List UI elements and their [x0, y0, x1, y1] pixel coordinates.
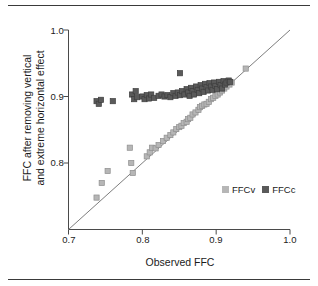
legend-entry-ffcc: FFCc — [262, 184, 295, 195]
x-tick-label-0.9: 0.9 — [203, 234, 229, 245]
plot-canvas — [0, 0, 318, 286]
scatter-plot-figure: 1.0 0.9 0.8 0.7 0.8 0.9 1.0 Observed FFC… — [0, 0, 318, 286]
x-tick-label-1.0: 1.0 — [277, 234, 303, 245]
y-axis-title: FFC after removing vertical and extreme … — [21, 18, 47, 218]
data-point-ffcc-6 — [133, 89, 138, 94]
data-point-ffcc-23 — [177, 71, 182, 76]
data-point-ffcv-4 — [129, 160, 134, 165]
y-axis-title-line-1: FFC after removing vertical — [21, 18, 34, 218]
legend-swatch-ffcc — [262, 186, 269, 193]
data-point-ffcv-1 — [99, 180, 104, 185]
data-point-ffcc-54 — [228, 79, 233, 84]
data-point-ffcv-5 — [130, 170, 135, 175]
data-point-ffcc-3 — [110, 99, 115, 104]
data-point-ffcv-40 — [243, 66, 248, 71]
y-axis-title-line-2: and extreme horizontal effect — [34, 18, 47, 218]
legend-label-ffcc: FFCc — [272, 184, 295, 195]
legend-swatch-ffcv — [222, 186, 229, 193]
legend-entry-ffcv: FFCv — [222, 184, 255, 195]
x-axis-title: Observed FFC — [60, 256, 300, 268]
x-tick-label-0.8: 0.8 — [130, 234, 156, 245]
legend: FFCv FFCc — [222, 184, 295, 195]
data-point-ffcv-3 — [127, 145, 132, 150]
data-point-ffcc-7 — [135, 95, 140, 100]
data-point-ffcv-2 — [105, 168, 110, 173]
data-point-ffcc-2 — [98, 97, 103, 102]
data-point-ffcv-0 — [94, 195, 99, 200]
legend-label-ffcv: FFCv — [232, 184, 255, 195]
x-tick-label-0.7: 0.7 — [56, 234, 82, 245]
